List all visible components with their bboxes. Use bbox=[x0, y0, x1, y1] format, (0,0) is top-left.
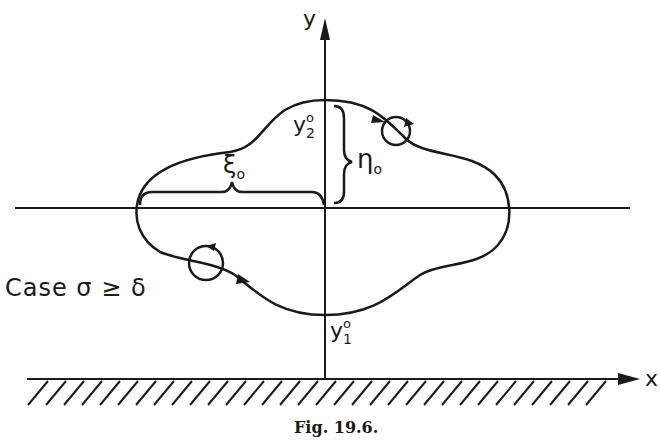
eta-brace bbox=[334, 106, 352, 203]
eta-subscript: o bbox=[373, 161, 382, 177]
case-label: Case σ ≥ δ bbox=[5, 276, 147, 300]
xi-base: ξ bbox=[223, 151, 236, 179]
y2-label: y2o bbox=[293, 114, 323, 136]
xi-subscript: o bbox=[236, 166, 245, 182]
x-axis-label: x bbox=[645, 368, 658, 390]
eta-label: ηo bbox=[357, 146, 382, 172]
y-axis-label: y bbox=[303, 8, 316, 30]
figure-caption: Fig. 19.6. bbox=[294, 420, 378, 436]
xi-brace bbox=[140, 182, 324, 205]
y1-subscript: 1 bbox=[343, 331, 352, 347]
y2-superscript: o bbox=[306, 110, 314, 125]
diagram-canvas bbox=[0, 0, 660, 443]
ground-hatching bbox=[28, 381, 606, 405]
y2-base: y bbox=[293, 112, 306, 137]
eta-base: η bbox=[357, 144, 373, 174]
direction-arrow-bottom bbox=[236, 274, 250, 284]
y2-subscript: 2 bbox=[306, 125, 315, 141]
xi-label: ξo bbox=[223, 153, 245, 177]
y1-superscript: o bbox=[343, 316, 351, 331]
y1-label: y1o bbox=[330, 320, 360, 342]
y1-base: y bbox=[330, 318, 343, 343]
